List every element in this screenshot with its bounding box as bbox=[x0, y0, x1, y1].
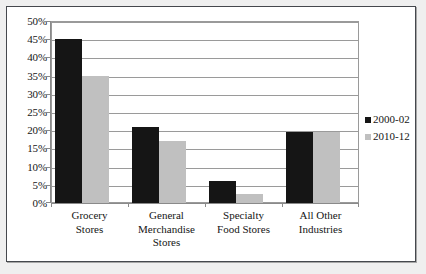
bar bbox=[132, 127, 159, 203]
y-axis-tick-mark bbox=[46, 21, 50, 22]
legend-swatch-icon bbox=[365, 117, 371, 123]
chart-frame: 0%5%10%15%20%25%30%35%40%45%50% Grocery … bbox=[6, 6, 416, 262]
bar bbox=[82, 76, 109, 203]
y-axis-tick-mark bbox=[46, 76, 50, 77]
bar bbox=[236, 194, 263, 203]
y-axis-tick-mark bbox=[46, 130, 50, 131]
y-axis-tick-label: 5% bbox=[11, 179, 47, 190]
y-axis-tick-mark bbox=[46, 57, 50, 58]
y-axis-tick-mark bbox=[46, 148, 50, 149]
bar bbox=[159, 141, 186, 203]
bar-group bbox=[205, 21, 282, 203]
x-axis-category-label: Specialty Food Stores bbox=[205, 209, 282, 236]
legend-item[interactable]: 2010-12 bbox=[365, 128, 415, 145]
y-axis-tick-labels: 0%5%10%15%20%25%30%35%40%45%50% bbox=[11, 21, 47, 203]
chart-legend: 2000-022010-12 bbox=[365, 111, 415, 145]
bar bbox=[286, 132, 313, 203]
bar bbox=[209, 181, 236, 203]
x-axis-tick-mark bbox=[128, 203, 129, 207]
y-axis-tick-label: 40% bbox=[11, 52, 47, 63]
y-axis-tick-label: 10% bbox=[11, 161, 47, 172]
x-axis-category-label: All Other Industries bbox=[282, 209, 359, 236]
x-axis-category-label: Grocery Stores bbox=[51, 209, 128, 236]
bar-group bbox=[282, 21, 359, 203]
y-axis-tick-label: 0% bbox=[11, 198, 47, 209]
y-axis-tick-label: 45% bbox=[11, 34, 47, 45]
y-axis-tick-mark bbox=[46, 185, 50, 186]
x-axis-tick-mark bbox=[282, 203, 283, 207]
y-axis-tick-label: 30% bbox=[11, 88, 47, 99]
y-axis-tick-label: 15% bbox=[11, 143, 47, 154]
bar bbox=[313, 132, 340, 203]
bars-layer bbox=[51, 21, 359, 203]
legend-label: 2010-12 bbox=[373, 131, 410, 142]
y-axis-tick-mark bbox=[46, 112, 50, 113]
y-axis-tick-label: 20% bbox=[11, 125, 47, 136]
y-axis-tick-mark bbox=[46, 94, 50, 95]
x-axis-tick-mark bbox=[205, 203, 206, 207]
x-axis-category-label: General Merchandise Stores bbox=[128, 209, 205, 250]
y-axis-tick-mark bbox=[46, 167, 50, 168]
bar-group bbox=[51, 21, 128, 203]
legend-swatch-icon bbox=[365, 134, 371, 140]
y-axis-tick-label: 35% bbox=[11, 70, 47, 81]
y-axis-tick-label: 25% bbox=[11, 107, 47, 118]
bar-group bbox=[128, 21, 205, 203]
x-axis-tick-mark bbox=[51, 203, 52, 207]
chart-plot-wrapper: 0%5%10%15%20%25%30%35%40%45%50% Grocery … bbox=[7, 7, 417, 261]
legend-item[interactable]: 2000-02 bbox=[365, 111, 415, 128]
x-axis-tick-mark bbox=[358, 203, 359, 207]
legend-label: 2000-02 bbox=[373, 114, 410, 125]
bar bbox=[55, 39, 82, 203]
y-axis-tick-label: 50% bbox=[11, 16, 47, 27]
x-axis-tick-marks bbox=[51, 203, 359, 207]
y-axis-tick-mark bbox=[46, 39, 50, 40]
y-axis-tick-mark bbox=[46, 202, 50, 203]
x-axis-category-labels: Grocery StoresGeneral Merchandise Stores… bbox=[51, 209, 359, 257]
